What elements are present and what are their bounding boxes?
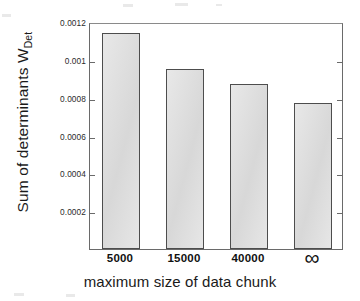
y-axis-tick-labels: 0.0012 0.001 0.0008 0.0006 0.0004 0.0002 [34,0,86,301]
y-tick-label: 0.0002 [60,207,86,217]
bar-40000 [230,84,268,249]
y-tick-label: 0.0008 [60,94,86,104]
y-tick-label: 0.001 [65,56,86,66]
bar-15000 [166,69,204,249]
x-tick-label-15000: 15000 [168,252,201,264]
scan-artifact [175,3,188,6]
scan-artifact [123,4,133,7]
y-axis-title-subscript: Det [22,32,34,49]
x-axis-title: maximum size of data chunk [0,273,360,290]
x-axis-tick-labels: 5000 15000 40000 ∞ [89,252,343,272]
x-tick-label-infinity: ∞ [305,246,320,270]
y-axis-title: Sum of determinants WDet [14,2,34,242]
plot-area [89,23,343,250]
scan-artifact [14,293,24,296]
y-tick-label: 0.0012 [60,18,86,28]
bar-infinity [294,103,332,249]
bar-series [90,24,342,249]
scan-artifact [216,4,222,6]
y-tick-label: 0.0004 [60,169,86,179]
scan-artifact [2,14,11,17]
bar-chart: Sum of determinants WDet 0.0012 0.001 0.… [0,0,360,301]
y-axis-title-text: Sum of determinants W [14,48,31,212]
x-tick-label-5000: 5000 [107,252,133,264]
x-tick-label-40000: 40000 [232,252,265,264]
bar-5000 [102,33,140,249]
y-tick-label: 0.0006 [60,132,86,142]
